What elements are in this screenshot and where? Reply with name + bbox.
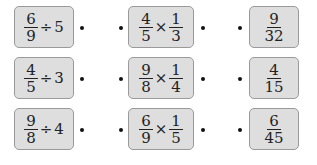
fraction-b: 1 3 (169, 11, 183, 44)
numerator: 4 (267, 62, 281, 79)
connect-dot-left-2[interactable] (80, 77, 84, 81)
denominator: 45 (262, 130, 285, 146)
connect-dot-right-3[interactable] (238, 128, 242, 132)
divisor: 3 (54, 70, 64, 86)
result-box-3[interactable]: 6 45 (249, 108, 299, 150)
fraction-a: 4 5 (139, 11, 153, 44)
denominator: 9 (24, 28, 38, 44)
divide-sign: ÷ (40, 121, 53, 137)
multiply-sign: × (155, 121, 168, 137)
denominator: 32 (262, 28, 285, 44)
connect-dot-middle-left-2[interactable] (119, 77, 123, 81)
result-box-1[interactable]: 9 32 (249, 6, 299, 48)
denominator: 9 (139, 130, 153, 146)
fraction: 9 8 (24, 113, 38, 146)
numerator: 1 (169, 113, 183, 130)
denominator: 8 (24, 130, 38, 146)
connect-dot-middle-right-2[interactable] (201, 77, 205, 81)
fraction: 4 5 (24, 62, 38, 95)
numerator: 6 (267, 113, 281, 130)
numerator: 1 (169, 11, 183, 28)
denominator: 5 (139, 28, 153, 44)
fraction: 6 45 (262, 113, 285, 146)
connect-dot-left-3[interactable] (80, 128, 84, 132)
left-expression-box-3[interactable]: 9 8 ÷ 4 (14, 108, 74, 150)
numerator: 9 (24, 113, 38, 130)
numerator: 6 (139, 113, 153, 130)
numerator: 9 (267, 11, 281, 28)
left-expression-box-1[interactable]: 6 9 ÷ 5 (14, 6, 74, 48)
denominator: 3 (169, 28, 183, 44)
numerator: 4 (139, 11, 153, 28)
denominator: 8 (139, 79, 153, 95)
connect-dot-right-1[interactable] (238, 26, 242, 30)
divisor: 5 (54, 19, 64, 35)
denominator: 15 (262, 79, 285, 95)
multiply-sign: × (155, 19, 168, 35)
denominator: 5 (169, 130, 183, 146)
divide-sign: ÷ (40, 70, 53, 86)
denominator: 4 (169, 79, 183, 95)
denominator: 5 (24, 79, 38, 95)
fraction-b: 1 4 (169, 62, 183, 95)
middle-expression-box-3[interactable]: 6 9 × 1 5 (128, 108, 194, 150)
divisor: 4 (54, 121, 64, 137)
middle-expression-box-2[interactable]: 9 8 × 1 4 (128, 57, 194, 99)
left-expression-box-2[interactable]: 4 5 ÷ 3 (14, 57, 74, 99)
middle-expression-box-1[interactable]: 4 5 × 1 3 (128, 6, 194, 48)
multiply-sign: × (155, 70, 168, 86)
connect-dot-middle-right-1[interactable] (201, 26, 205, 30)
connect-dot-middle-left-1[interactable] (119, 26, 123, 30)
connect-dot-middle-left-3[interactable] (119, 128, 123, 132)
fraction-a: 6 9 (139, 113, 153, 146)
numerator: 6 (24, 11, 38, 28)
divide-sign: ÷ (40, 19, 53, 35)
numerator: 1 (169, 62, 183, 79)
connect-dot-middle-right-3[interactable] (201, 128, 205, 132)
numerator: 9 (139, 62, 153, 79)
fraction: 6 9 (24, 11, 38, 44)
fraction-a: 9 8 (139, 62, 153, 95)
fraction: 9 32 (262, 11, 285, 44)
connect-dot-left-1[interactable] (80, 26, 84, 30)
numerator: 4 (24, 62, 38, 79)
fraction: 4 15 (262, 62, 285, 95)
result-box-2[interactable]: 4 15 (249, 57, 299, 99)
fraction-b: 1 5 (169, 113, 183, 146)
connect-dot-right-2[interactable] (238, 77, 242, 81)
